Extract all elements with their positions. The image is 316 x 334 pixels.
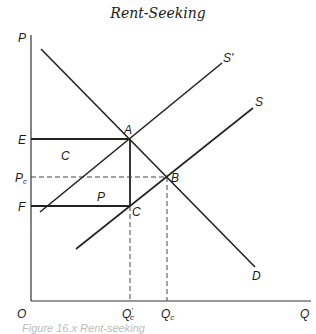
point-b-label: B xyxy=(171,171,179,185)
region-p-label: P xyxy=(97,190,105,204)
origin-label: O xyxy=(17,307,26,321)
supply-shifted-curve xyxy=(40,63,222,212)
price-label-pc: Pc xyxy=(15,171,27,186)
price-label-f: F xyxy=(18,200,26,214)
price-label-e: E xyxy=(18,133,27,147)
supply-curve xyxy=(76,108,253,249)
figure-caption: Figure 16.x Rent-seeking xyxy=(22,322,145,334)
quantity-label-qc-prime: Q'c xyxy=(122,306,134,322)
point-c-label: C xyxy=(132,205,141,219)
supply-label: S xyxy=(255,95,263,109)
x-axis-label: Q xyxy=(300,307,309,321)
qc-prime-sub: c xyxy=(130,313,134,322)
region-c-label: C xyxy=(61,149,70,163)
y-axis-label: P xyxy=(18,31,26,45)
price-label-pc-sub: c xyxy=(23,177,27,186)
point-a-label: A xyxy=(123,123,132,137)
quantity-label-qc: Qc xyxy=(161,307,174,322)
qc-main: Q xyxy=(161,307,170,321)
demand-label: D xyxy=(252,269,261,283)
supply-shifted-label: S' xyxy=(223,51,234,65)
qc-sub: c xyxy=(170,313,174,322)
demand-curve xyxy=(41,49,255,267)
price-label-pc-main: P xyxy=(15,171,23,185)
